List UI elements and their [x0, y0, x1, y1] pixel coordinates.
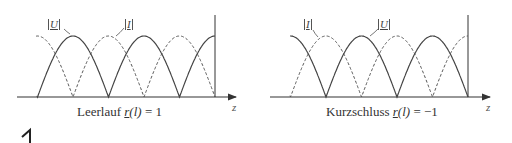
standing-wave-diagram	[0, 0, 512, 143]
caption-text: Kurzschluss	[326, 104, 393, 119]
label-voltage-magnitude: U	[378, 18, 390, 30]
label-current-magnitude: I	[304, 18, 312, 30]
label-leader-I	[116, 28, 124, 36]
caption-text: Leerlauf	[77, 104, 124, 119]
label-leader-U	[64, 29, 70, 34]
z-axis-label: z	[486, 101, 490, 113]
caption-kurzschluss: Kurzschluss r(l) = −1	[326, 104, 438, 120]
caption-leerlauf: Leerlauf r(l) = 1	[77, 104, 162, 120]
caption-arg: (l)	[129, 104, 141, 119]
z-axis-label: z	[232, 101, 236, 113]
corner-mark	[22, 130, 30, 143]
current-curve	[36, 36, 215, 97]
label-I-text: I	[125, 19, 133, 30]
voltage-curve	[37, 36, 215, 97]
label-leader-I	[313, 30, 318, 37]
label-U-text: U	[48, 19, 60, 30]
current-curve	[290, 36, 468, 97]
caption-arg: (l)	[398, 104, 410, 119]
label-current-magnitude: I	[125, 18, 133, 30]
label-U-text: U	[378, 19, 390, 30]
label-voltage-magnitude: U	[48, 18, 60, 30]
caption-value: = 1	[142, 104, 162, 119]
caption-value: = −1	[410, 104, 438, 119]
label-I-text: I	[304, 19, 312, 30]
label-leader-U	[370, 29, 378, 36]
voltage-curve	[290, 36, 468, 97]
